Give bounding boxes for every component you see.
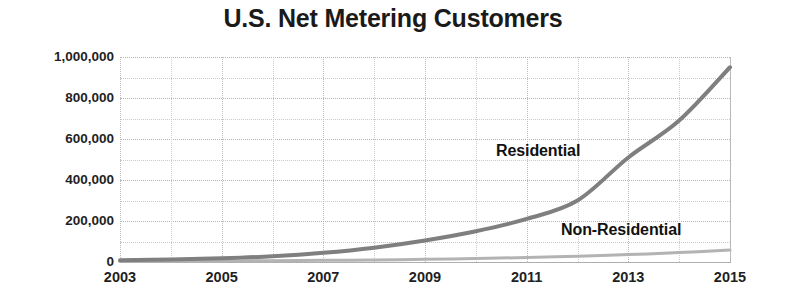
y-axis-tick-labels: 0200,000400,000600,000800,0001,000,000: [0, 0, 114, 305]
y-tick-label: 800,000: [6, 91, 114, 105]
y-tick-label: 0: [6, 255, 114, 269]
chart-title: U.S. Net Metering Customers: [0, 2, 786, 34]
x-tick-label: 2009: [380, 268, 470, 286]
y-tick-label: 400,000: [6, 173, 114, 187]
annotation-non-residential: Non-Residential: [561, 221, 681, 239]
gridline-vertical: [730, 57, 731, 262]
annotation-residential: Residential: [496, 142, 580, 160]
x-tick-label: 2011: [482, 268, 572, 286]
y-tick-label: 1,000,000: [6, 50, 114, 64]
x-tick-label: 2007: [278, 268, 368, 286]
x-tick-label: 2003: [75, 268, 165, 286]
x-tick-label: 2015: [685, 268, 775, 286]
y-tick-label: 600,000: [6, 132, 114, 146]
chart-figure: U.S. Net Metering Customers 0200,000400,…: [0, 0, 786, 305]
y-tick-label: 200,000: [6, 214, 114, 228]
x-tick-label: 2005: [177, 268, 267, 286]
x-tick-label: 2013: [583, 268, 673, 286]
